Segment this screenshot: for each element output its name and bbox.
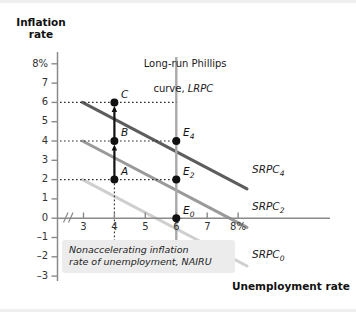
curve-srpc4 bbox=[83, 102, 248, 188]
lrpc-callout-line2-prefix: curve, bbox=[153, 83, 187, 94]
curve-label-srpc4-sub: 4 bbox=[280, 169, 285, 178]
curve-label-srpc0-base: SRPC bbox=[252, 248, 280, 260]
lrpc-callout-acronym: LRPC bbox=[188, 83, 214, 94]
y-tick-label-7: 7 bbox=[10, 77, 48, 88]
y-tick-label-1: 1 bbox=[10, 192, 48, 203]
x-axis-title: Unemployment rate bbox=[232, 281, 350, 293]
curve-label-srpc2: SRPC2 bbox=[252, 201, 284, 215]
y-tick-label-4: 4 bbox=[10, 135, 48, 146]
point-label-e4-base: E bbox=[183, 126, 190, 138]
point-label-b: B bbox=[121, 127, 128, 139]
curve-label-srpc4: SRPC4 bbox=[252, 164, 284, 178]
curve-label-srpc0: SRPC0 bbox=[252, 249, 284, 263]
point-c bbox=[110, 98, 118, 106]
curve-label-srpc2-sub: 2 bbox=[280, 206, 285, 215]
y-tick-label-2: 2 bbox=[10, 173, 48, 184]
y-tick-label-0: 0 bbox=[10, 212, 48, 223]
curve-label-srpc2-base: SRPC bbox=[252, 200, 280, 212]
y-tick-label-8: 8% bbox=[10, 58, 48, 69]
point-label-e0: E0 bbox=[183, 205, 194, 219]
curve-srpc2 bbox=[83, 141, 248, 227]
x-tick-label-8: 8% bbox=[224, 221, 252, 232]
point-b bbox=[110, 137, 118, 145]
x-tick-label-4: 4 bbox=[102, 221, 127, 232]
y-tick-label-6: 6 bbox=[10, 96, 48, 107]
y-axis-ticks bbox=[52, 64, 58, 276]
point-label-e2-base: E bbox=[183, 165, 190, 177]
lrpc-callout-label: Long-run Phillips curve, LRPC bbox=[131, 46, 223, 107]
x-tick-label-7: 7 bbox=[195, 221, 220, 232]
y-tick-label-minus1: –1 bbox=[8, 231, 48, 242]
point-e2 bbox=[172, 176, 180, 184]
lrpc-callout-line1: Long-run Phillips bbox=[144, 58, 227, 69]
point-e4 bbox=[172, 137, 180, 145]
point-label-e4: E4 bbox=[183, 127, 194, 141]
point-a bbox=[110, 176, 118, 184]
y-tick-label-minus3: –3 bbox=[8, 270, 48, 281]
phillips-curve-figure: Inflation rate Unemployment rate 8% 7 6 … bbox=[0, 0, 356, 312]
y-axis-title: Inflation rate bbox=[8, 17, 74, 41]
point-label-e2: E2 bbox=[183, 166, 194, 180]
x-tick-label-3: 3 bbox=[71, 221, 96, 232]
point-label-c: C bbox=[121, 89, 128, 101]
point-label-e0-sub: 0 bbox=[190, 210, 195, 219]
y-tick-label-minus2: –2 bbox=[8, 250, 48, 261]
y-tick-label-5: 5 bbox=[10, 115, 48, 126]
x-axis-ticks bbox=[84, 213, 239, 219]
y-tick-label-3: 3 bbox=[10, 154, 48, 165]
curve-label-srpc4-base: SRPC bbox=[252, 163, 280, 175]
nairu-callout-box: Nonaccelerating inflation rate of unempl… bbox=[62, 240, 235, 273]
point-label-e4-sub: 4 bbox=[190, 132, 195, 141]
point-label-e0-base: E bbox=[183, 204, 190, 216]
x-tick-label-5: 5 bbox=[133, 221, 158, 232]
x-tick-label-6: 6 bbox=[164, 221, 189, 232]
point-label-a: A bbox=[121, 166, 128, 178]
point-label-e2-sub: 2 bbox=[190, 171, 195, 180]
curve-label-srpc0-sub: 0 bbox=[280, 254, 285, 263]
